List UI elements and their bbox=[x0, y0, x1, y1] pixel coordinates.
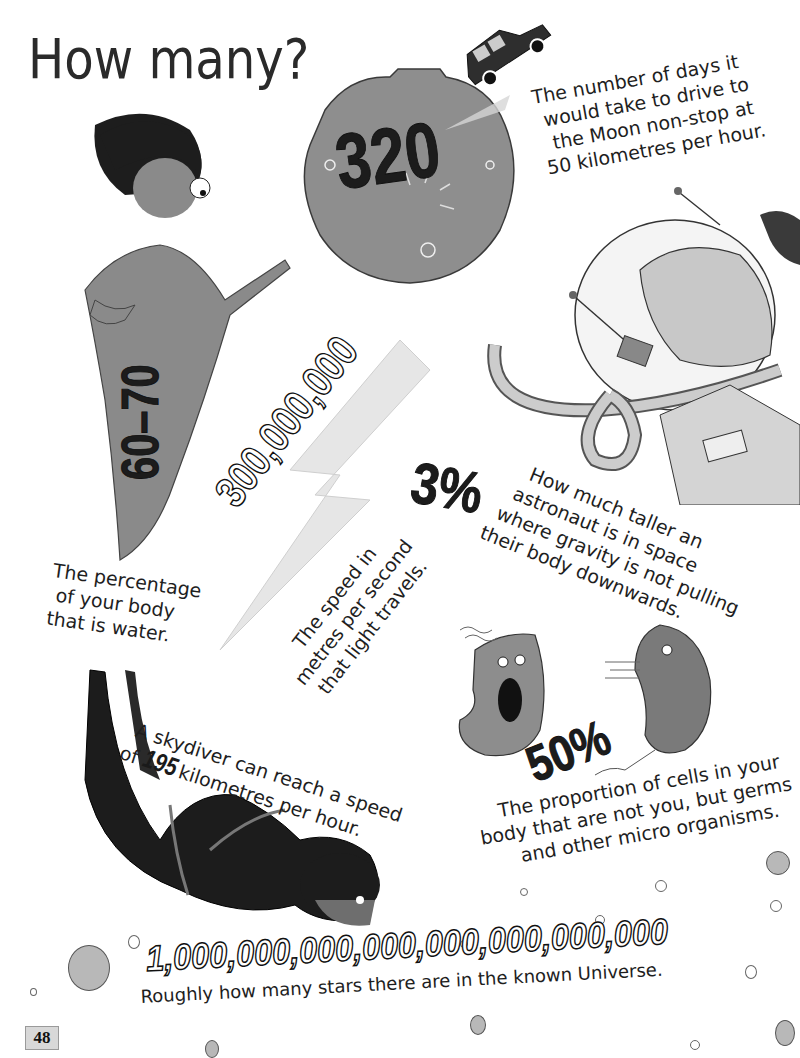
dot-icon bbox=[745, 965, 757, 979]
bubble-icon bbox=[470, 1015, 486, 1035]
dot-icon bbox=[128, 935, 140, 949]
page-title: How many? bbox=[28, 26, 309, 91]
fact-caption-water: The percentage of your body that is wate… bbox=[45, 558, 203, 650]
astronaut-illustration bbox=[480, 185, 800, 505]
page-number: 48 bbox=[25, 1026, 59, 1050]
dot-icon bbox=[770, 900, 782, 912]
dot-icon bbox=[690, 1040, 700, 1050]
bubble-icon bbox=[68, 945, 110, 991]
dot-icon bbox=[30, 988, 37, 996]
dot-icon bbox=[520, 888, 528, 896]
fact-number-moon: 320 bbox=[330, 104, 446, 209]
bubble-icon bbox=[205, 1040, 219, 1058]
bubble-icon bbox=[766, 851, 790, 875]
fact-number-astronaut: 3% bbox=[406, 448, 488, 526]
bubble-icon bbox=[775, 1020, 795, 1046]
dot-icon bbox=[655, 880, 667, 892]
fact-number-water: 60–70 bbox=[110, 364, 170, 480]
